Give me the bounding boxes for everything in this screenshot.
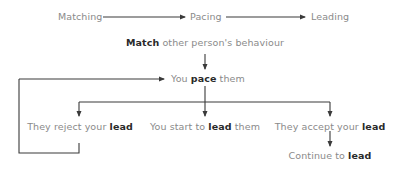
stage-matching: Matching [58, 11, 102, 23]
node-pace-pre: You [171, 73, 191, 84]
node-reject-bold: lead [110, 121, 133, 132]
node-start: You start to lead them [150, 121, 260, 133]
node-reject-pre: They reject your [27, 121, 109, 132]
node-pace: You pace them [171, 73, 245, 85]
node-accept-bold: lead [362, 121, 385, 132]
node-pace-bold: pace [191, 73, 217, 84]
node-start-bold: lead [208, 121, 231, 132]
node-continue-pre: Continue to [289, 150, 349, 161]
stage-pacing: Pacing [190, 11, 222, 23]
node-continue: Continue to lead [289, 150, 372, 162]
node-accept-pre: They accept your [275, 121, 362, 132]
node-accept: They accept your lead [275, 121, 386, 133]
node-start-pre: You start to [150, 121, 208, 132]
node-continue-bold: lead [348, 150, 371, 161]
node-start-post: them [232, 121, 260, 132]
node-reject: They reject your lead [27, 121, 133, 133]
node-match-rest: other person's behaviour [159, 37, 284, 48]
node-match-bold: Match [126, 37, 159, 48]
node-pace-post: them [216, 73, 244, 84]
node-match: Match other person's behaviour [126, 37, 284, 49]
loop-back-line [19, 79, 79, 153]
stage-leading: Leading [311, 11, 349, 23]
